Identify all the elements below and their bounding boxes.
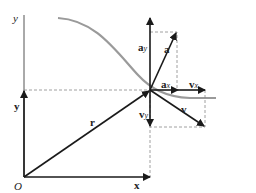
y-vector-label: y (14, 101, 20, 112)
x-vector-label: x (134, 180, 140, 191)
vx-label: vx (189, 79, 198, 90)
r-vector-label: r (90, 117, 95, 128)
vy-label: vy (139, 109, 148, 120)
diagram-canvas (0, 0, 256, 193)
kinematics-diagram: y O y x r ay a ax vx v vy (0, 0, 256, 193)
ax-label: ax (161, 79, 170, 90)
dashed-guides (24, 32, 205, 177)
y-axis-label: y (13, 13, 18, 24)
r-vector (24, 91, 149, 177)
v-vector (150, 90, 204, 126)
origin-label: O (14, 181, 22, 192)
a-label: a (164, 44, 170, 55)
ay-label: ay (138, 42, 147, 53)
v-label: v (181, 104, 187, 115)
